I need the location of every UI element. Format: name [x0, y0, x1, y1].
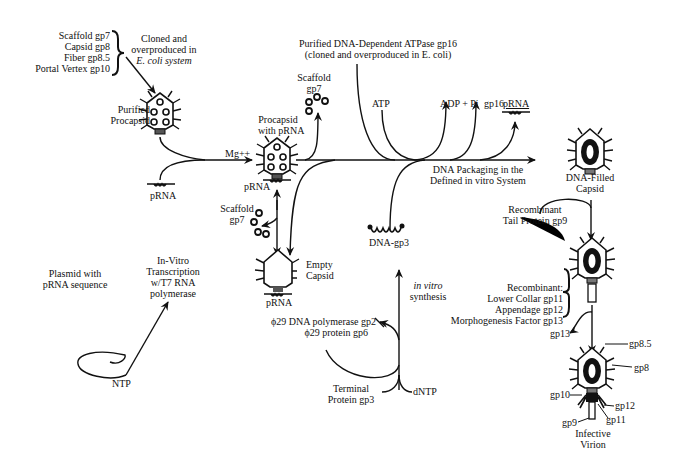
label-line: In-Vitro	[143, 255, 203, 266]
gp9-label: gp9	[562, 417, 577, 428]
label-line: DNA Packaging in the	[418, 164, 538, 175]
scaffold-bottom-label: Scaffold gp7	[220, 203, 254, 225]
prna-icon	[147, 184, 175, 186]
brace-components	[112, 31, 124, 75]
prna-label: pRNA	[503, 98, 529, 109]
label-line: Protein gp3	[322, 394, 380, 405]
label-line: DNA-Filled	[565, 172, 615, 183]
prna-label: pRNA	[266, 297, 292, 308]
adp-label: ADP + Pi	[440, 98, 479, 109]
label-line: Purified	[110, 104, 150, 115]
label-line: Capsid	[306, 270, 334, 281]
polymerase-label: ϕ29 DNA polymerase gp2 ϕ29 protein gp6	[268, 316, 376, 338]
ntp-label: NTP	[112, 378, 131, 389]
cloned-note-line: Cloned and	[128, 33, 200, 44]
label-line: (cloned and overproduced in E. coli)	[288, 49, 468, 60]
label-line: Recombinant:	[446, 282, 563, 293]
label-line: Defined in vitro System	[418, 175, 538, 186]
gp10-label: gp10	[550, 389, 570, 400]
label-line: Procapsid	[258, 114, 298, 125]
label-line: Appendage gp12	[446, 304, 563, 315]
label-line: Procapsid	[110, 115, 150, 126]
label-line: ϕ29 DNA polymerase gp2	[268, 316, 376, 327]
gp8-5-label: gp8.5	[629, 338, 652, 349]
label-line: ϕ29 protein gp6	[268, 327, 376, 338]
scaffold-gp7-label: Scaffold gp7	[15, 30, 110, 41]
cloned-note-line: E. coli system	[128, 55, 200, 66]
gp11-label: gp11	[606, 414, 626, 425]
in-vitro-synthesis-label: in vitro synthesis	[408, 280, 448, 302]
label-line: Scaffold	[296, 72, 332, 83]
label-line: polymerase	[143, 288, 203, 299]
empty-capsid-icon	[255, 250, 299, 292]
label-line: pRNA sequence	[40, 279, 110, 290]
recombinant-list-label: Recombinant: Lower Collar gp11 Appendage…	[446, 282, 563, 326]
cloned-note: Cloned and overproduced in E. coli syste…	[128, 33, 200, 66]
procapsid-with-prna-label: Procapsid with pRNA	[258, 114, 298, 136]
empty-capsid-label: Empty Capsid	[306, 259, 334, 281]
dna-gp3-label: DNA-gp3	[369, 237, 409, 248]
gp16-label: gp16	[484, 98, 504, 109]
atpase-label: Purified DNA-Dependent ATPase gp16 (clon…	[288, 38, 468, 60]
procapsid-with-prna-icon	[256, 136, 298, 179]
label-line: Capsid	[565, 183, 615, 194]
label-line: in vitro	[408, 280, 448, 291]
terminal-protein-label: Terminal Protein gp3	[322, 383, 380, 405]
prna-icon	[502, 112, 530, 114]
label-line: Recombinant	[495, 204, 575, 215]
transcription-label: In-Vitro Transcription w/T7 RNA polymera…	[143, 255, 203, 299]
mg-label: Mg++	[225, 148, 250, 159]
label-line: gp7	[220, 214, 254, 225]
capsid-with-tail-icon	[569, 237, 615, 283]
label-line: synthesis	[408, 291, 448, 302]
label-line: Terminal	[322, 383, 380, 394]
label-line: Lower Collar gp11	[446, 293, 563, 304]
label-line: Empty	[306, 259, 334, 270]
prna-label: pRNA	[150, 190, 176, 201]
gp12-label: gp12	[615, 400, 635, 411]
portal-vertex-gp10-label: Portal Vertex gp10	[15, 63, 110, 74]
gp8-label: gp8	[634, 362, 649, 373]
dna-filled-capsid-icon	[567, 128, 613, 174]
tail-protein-label: Recombinant Tail Protein gp9	[495, 204, 575, 226]
gp13-label: gp13	[550, 328, 570, 339]
label-line: Infective	[572, 428, 614, 439]
cloned-note-line: overproduced in	[128, 44, 200, 55]
label-line: Plasmid with	[40, 268, 110, 279]
prna-icon	[264, 294, 292, 296]
label-line: Scaffold	[220, 203, 254, 214]
fiber-gp8-5-label: Fiber gp8.5	[15, 52, 110, 63]
label-line: w/T7 RNA	[143, 277, 203, 288]
label-line: Purified DNA-Dependent ATPase gp16	[288, 38, 468, 49]
dna-filled-capsid-label: DNA-Filled Capsid	[565, 172, 615, 194]
plasmid-label: Plasmid with pRNA sequence	[40, 268, 110, 290]
label-line: Virion	[572, 439, 614, 450]
atp-label: ATP	[372, 98, 390, 109]
label-line: Transcription	[143, 266, 203, 277]
dntp-label: dNTP	[413, 386, 437, 397]
purified-procapsid-label: Purified Procapsid	[110, 104, 150, 126]
label-line: Tail Protein gp9	[495, 215, 575, 226]
capsid-gp8-label: Capsid gp8	[15, 41, 110, 52]
infective-virion-label: Infective Virion	[572, 428, 614, 450]
packaging-label: DNA Packaging in the Defined in vitro Sy…	[418, 164, 538, 186]
label-line: Morphogenesis Factor gp13	[446, 315, 563, 326]
prna-label: pRNA	[244, 181, 270, 192]
label-line: with pRNA	[258, 125, 298, 136]
component-list: Scaffold gp7 Capsid gp8 Fiber gp8.5 Port…	[15, 30, 110, 74]
label-line: gp7	[296, 83, 332, 94]
scaffold-top-label: Scaffold gp7	[296, 72, 332, 94]
